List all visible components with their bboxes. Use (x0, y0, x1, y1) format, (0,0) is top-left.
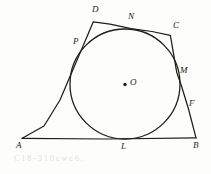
label-point-f: F (189, 99, 195, 108)
label-point-n: N (128, 12, 134, 21)
label-center-o: O (130, 78, 137, 87)
label-point-c: C (173, 21, 179, 30)
figure-canvas (0, 0, 211, 174)
label-point-l: L (121, 142, 126, 151)
side-BC (170, 36, 196, 138)
side-AB (22, 138, 196, 139)
side-DA (22, 22, 93, 138)
label-point-a: A (16, 141, 22, 150)
label-point-m: M (180, 66, 188, 75)
label-point-p: P (73, 37, 79, 46)
circle-center-dot (123, 83, 126, 86)
label-point-b: B (193, 141, 199, 150)
label-point-d: D (92, 5, 99, 14)
geometry-figure: A B C D L M N P O F C 1 8 - 3 1 0 c w c … (0, 0, 211, 174)
